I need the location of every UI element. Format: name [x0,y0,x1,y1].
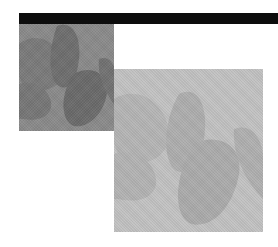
light-petals-image [114,69,263,232]
petals-graphic [114,69,263,232]
top-black-bar [19,13,278,24]
dark-petals-image [19,24,114,131]
petals-graphic [19,24,114,131]
